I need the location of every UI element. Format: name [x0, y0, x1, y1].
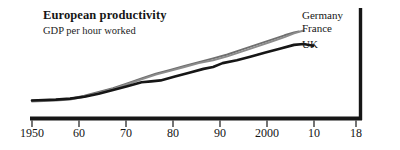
series-line-france — [32, 30, 304, 101]
legend-item-france: France — [302, 22, 397, 35]
chart-title: European productivity — [43, 8, 273, 22]
chart-legend: Germany France UK — [302, 9, 397, 50]
x-tick-label-2000: 2000 — [255, 126, 279, 140]
x-tick-label-1990: 90 — [214, 126, 226, 140]
x-tick-label-1960: 60 — [73, 126, 85, 140]
x-tick-label-1950: 1950 — [20, 126, 44, 140]
legend-item-uk: UK — [302, 38, 397, 51]
chart-container: European productivity GDP per hour worke… — [0, 0, 400, 150]
x-axis-tick-labels: 1950 60 70 80 90 2000 10 18 — [0, 126, 400, 144]
legend-item-germany: Germany — [302, 9, 397, 22]
chart-subtitle: GDP per hour worked — [43, 24, 273, 37]
series-lines — [32, 30, 313, 101]
series-line-germany — [32, 31, 299, 100]
x-tick-label-1980: 80 — [167, 126, 179, 140]
x-tick-label-1970: 70 — [120, 126, 132, 140]
x-tick-label-2010: 10 — [308, 126, 320, 140]
series-line-uk — [32, 44, 313, 101]
title-block: European productivity GDP per hour worke… — [43, 8, 273, 37]
x-tick-label-2018: 18 — [350, 126, 362, 140]
